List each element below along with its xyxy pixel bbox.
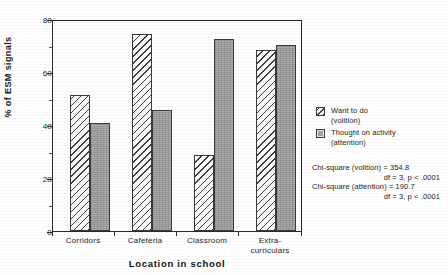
x-group-label-line: Cafeteria xyxy=(128,236,162,245)
stat-volition-chisquare: Chi-square (volition) = 354.8 xyxy=(312,163,444,173)
legend-label-line: (attention) xyxy=(331,138,396,148)
bar-corridors-attention xyxy=(90,123,110,231)
bar-cafeteria-volition xyxy=(132,34,152,231)
x-group-label-classroom: Classroom xyxy=(177,236,237,246)
bars-layer xyxy=(53,21,301,231)
x-group-label-line: Corridors xyxy=(66,236,101,245)
x-tick-mark xyxy=(301,232,302,236)
x-group-label-line: Extra- xyxy=(259,236,282,245)
bar-corridors-volition xyxy=(70,95,90,232)
legend-label-line: Thought on activity xyxy=(331,128,396,138)
y-axis-title: % of ESM signals xyxy=(3,17,13,137)
chart-legend: Want to do (volition) Thought on activit… xyxy=(316,106,444,150)
x-group-label-line: curriculars xyxy=(250,246,289,255)
legend-label-line: (volition) xyxy=(331,116,368,126)
plot-area xyxy=(52,20,302,232)
stat-attention-chisquare: Chi-square (attention) = 190.7 xyxy=(312,182,444,192)
bar-classroom-attention xyxy=(214,39,234,231)
x-group-label-extracurriculars: Extra- curriculars xyxy=(239,236,301,256)
legend-item-volition: Want to do (volition) xyxy=(316,106,444,125)
legend-label-line: Want to do xyxy=(331,106,368,116)
x-group-label-corridors: Corridors xyxy=(53,236,113,246)
legend-swatch-attention-icon xyxy=(316,129,325,138)
chart-figure: 80 60 40 20 0 % of ESM signals xyxy=(0,0,448,275)
x-group-label-cafeteria: Cafeteria xyxy=(115,236,175,246)
x-axis-title: Location in school xyxy=(52,258,302,269)
legend-label-volition: Want to do (volition) xyxy=(331,106,368,125)
bar-cafeteria-attention xyxy=(152,110,172,231)
legend-item-attention: Thought on activity (attention) xyxy=(316,128,444,147)
statistics-annotation: Chi-square (volition) = 354.8 df = 3, p … xyxy=(312,163,444,201)
x-group-label-line: Classroom xyxy=(187,236,227,245)
legend-label-attention: Thought on activity (attention) xyxy=(331,128,396,147)
stat-attention-df: df = 3, p < .0001 xyxy=(312,192,444,202)
legend-swatch-volition-icon xyxy=(316,107,325,116)
stat-volition-df: df = 3, p < .0001 xyxy=(312,173,444,183)
bar-extracurriculars-volition xyxy=(256,50,276,231)
bar-classroom-volition xyxy=(194,155,214,231)
bar-extracurriculars-attention xyxy=(276,45,296,231)
